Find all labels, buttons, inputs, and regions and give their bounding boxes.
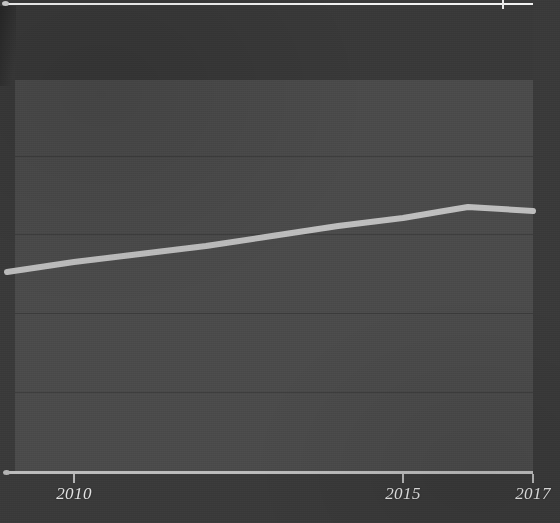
upper-chart-axis-cap: [2, 1, 9, 6]
series-line-1: [7, 207, 533, 272]
x-tick-2017: [532, 474, 534, 483]
figure-top-margin: [0, 6, 560, 80]
x-tick-label-2010: 2010: [56, 484, 92, 504]
x-tick-2015: [402, 474, 404, 483]
x-axis-left-cap: [3, 470, 10, 475]
upper-chart-axis-tick: [502, 0, 504, 9]
x-tick-2010: [73, 474, 75, 483]
x-tick-label-2017: 2017: [515, 484, 551, 504]
x-tick-label-2015: 2015: [385, 484, 421, 504]
upper-chart-axis-line: [7, 3, 533, 5]
x-axis-line: [8, 471, 533, 474]
chart-screenshot: 201020152017: [0, 0, 560, 523]
series-line-layer: [0, 80, 560, 480]
